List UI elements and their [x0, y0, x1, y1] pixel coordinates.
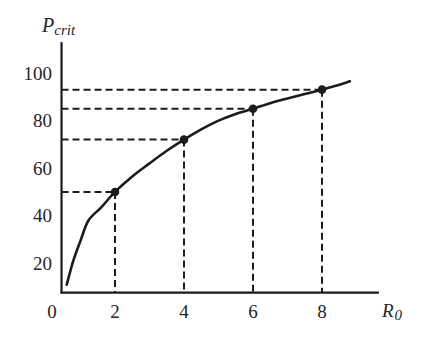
y-tick-label: 100	[24, 63, 53, 84]
origin-label: 0	[47, 301, 57, 322]
line-chart: 2040608010024680 Pcrit R0	[0, 0, 426, 337]
x-tick-label: 8	[317, 301, 327, 322]
x-tick-label: 6	[248, 301, 258, 322]
data-point-marker	[249, 104, 258, 113]
axes	[61, 42, 379, 294]
curve-layer	[67, 81, 350, 284]
data-curve	[67, 81, 350, 284]
data-point-marker	[318, 85, 327, 94]
y-axis-title: Pcrit	[41, 14, 76, 38]
data-point-marker	[111, 188, 120, 197]
y-tick-label: 60	[33, 158, 52, 179]
dashed-guide-lines	[62, 90, 322, 293]
y-axis-title-main: P	[41, 14, 54, 36]
y-tick-label: 20	[33, 253, 52, 274]
x-axis-title-main: R	[381, 300, 394, 321]
x-tick-label: 2	[110, 301, 120, 322]
y-tick-label: 40	[33, 205, 52, 226]
y-tick-label: 80	[33, 110, 52, 131]
data-point-marker	[180, 135, 189, 144]
x-axis-title: R0	[381, 300, 403, 323]
x-axis-title-subscript: 0	[395, 307, 403, 323]
x-tick-label: 4	[179, 301, 189, 322]
y-axis-title-subscript: crit	[54, 22, 76, 38]
chart-figure: 2040608010024680 Pcrit R0	[0, 0, 426, 337]
marked-points	[111, 85, 327, 196]
